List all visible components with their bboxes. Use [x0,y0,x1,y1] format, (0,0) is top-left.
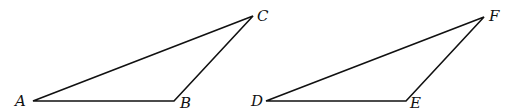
vertex-label-a: A [13,92,26,110]
vertex-label-d: D [250,92,263,110]
vertex-label-e: E [409,94,421,112]
vertex-label-c: C [257,7,269,25]
triangles-diagram: A B C D E F [0,0,522,112]
triangle-def [266,17,484,101]
vertex-label-f: F [488,7,500,25]
vertex-label-b: B [179,94,191,112]
triangle-abc [33,16,253,101]
